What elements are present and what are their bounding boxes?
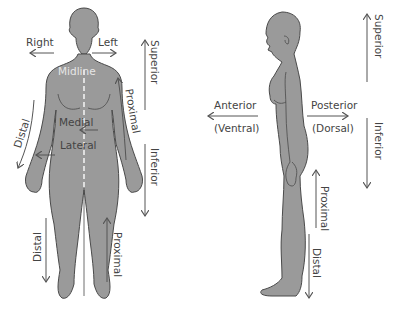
label-posterior: Posterior bbox=[311, 100, 357, 111]
label-anterior: Anterior bbox=[214, 100, 256, 111]
label-inferior-front: Inferior bbox=[150, 148, 161, 186]
side-body-figure bbox=[261, 12, 308, 296]
label-ventral: (Ventral) bbox=[214, 123, 259, 134]
diagram-graphics bbox=[0, 0, 394, 310]
label-superior-front: Superior bbox=[150, 40, 161, 84]
label-lateral: Lateral bbox=[60, 140, 97, 151]
label-left: Left bbox=[98, 37, 118, 48]
label-proximal-side: Proximal bbox=[320, 186, 331, 231]
label-dorsal: (Dorsal) bbox=[312, 123, 354, 134]
label-inferior-side: Inferior bbox=[374, 122, 385, 160]
label-midline: Midline bbox=[58, 66, 96, 77]
label-right: Right bbox=[26, 37, 54, 48]
label-distal-leg: Distal bbox=[32, 232, 43, 262]
label-distal-side: Distal bbox=[312, 248, 323, 278]
anatomical-directions-diagram: Right Left Midline Medial Lateral Distal… bbox=[0, 0, 394, 310]
label-proximal-leg: Proximal bbox=[113, 232, 124, 277]
label-medial: Medial bbox=[59, 117, 93, 128]
label-superior-side: Superior bbox=[374, 14, 385, 58]
